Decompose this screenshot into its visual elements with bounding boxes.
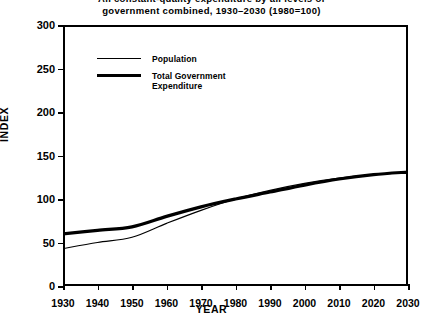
chart-title: All constant-quality expenditure by all … [0,0,423,16]
x-tick-label: 1960 [155,297,178,309]
legend-item-total-government-expenditure: Total Government Expenditure [97,71,226,91]
legend-item-population: Population [97,54,226,64]
x-tick-mark [408,284,410,290]
x-tick-label: 2010 [327,297,350,309]
legend-label-population: Population [152,54,197,64]
x-tick-label: 1950 [120,297,143,309]
x-tick-label: 2020 [362,297,385,309]
chart-title-line-2: government combined, 1930–2030 (1980=100… [0,5,423,17]
legend-line-sample-thick-icon [97,74,141,77]
y-tick-label: 200 [37,106,55,118]
chart-figure: All constant-quality expenditure by all … [0,0,423,325]
x-tick-label: 2000 [293,297,316,309]
y-tick-label: 150 [37,150,55,162]
chart-legend: Population Total Government Expenditure [97,54,226,98]
x-tick-label: 2030 [396,297,419,309]
x-tick-label: 1970 [189,297,212,309]
y-tick-label: 250 [37,63,55,75]
y-tick-label: 300 [37,19,55,31]
x-tick-label: 1990 [258,297,281,309]
y-tick-label: 0 [49,280,55,292]
series-line-population [63,172,408,249]
series-line-total-government-expenditure [63,172,408,234]
y-tick-label: 100 [37,193,55,205]
legend-label-total-government-expenditure: Total Government Expenditure [152,71,226,91]
y-tick-label: 50 [43,237,55,249]
legend-line-sample-thin-icon [97,58,141,59]
x-tick-label: 1930 [51,297,74,309]
x-tick-label: 1940 [86,297,109,309]
y-axis-title: INDEX [0,107,10,142]
x-tick-label: 1980 [224,297,247,309]
